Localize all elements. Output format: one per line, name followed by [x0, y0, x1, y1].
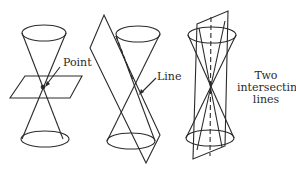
cone-generator — [107, 34, 160, 141]
panel-line — [90, 15, 160, 163]
label-two-lines: Two intersecting lines — [237, 70, 295, 106]
horizontal-plane — [10, 76, 82, 98]
label-point: Point — [63, 57, 92, 69]
cone-top-ellipse — [188, 27, 236, 43]
cone-bottom-ellipse — [21, 131, 69, 147]
panel-point — [10, 25, 82, 147]
line-arrow — [142, 78, 156, 92]
label-line-3: lines — [237, 94, 295, 106]
cone-bottom-ellipse — [107, 133, 155, 149]
tangent-plane — [90, 15, 160, 163]
cone-top-ellipse — [22, 25, 66, 41]
panel-two-lines — [186, 11, 236, 159]
label-line: Line — [157, 71, 181, 83]
cone-top-ellipse — [116, 26, 160, 42]
apex-point — [41, 85, 45, 89]
